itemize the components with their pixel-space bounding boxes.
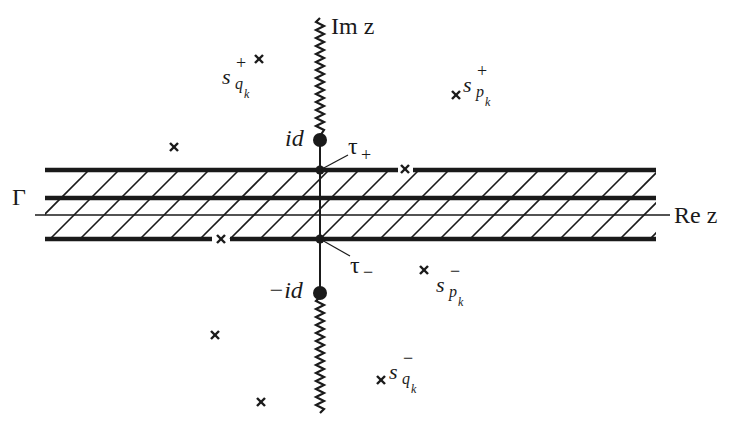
complex-plane-diagram	[0, 0, 740, 436]
s-sub: p	[449, 284, 457, 300]
lower-branch-cut	[316, 297, 324, 413]
real-axis-label: Re z	[674, 203, 717, 227]
s-sign: −	[450, 262, 460, 280]
tau-plus-symbol: τ	[348, 133, 358, 159]
cross-icon	[211, 331, 219, 339]
tau-minus-leader	[320, 239, 350, 256]
s-sign: −	[403, 349, 413, 367]
lower-branch-point-label: −id	[268, 278, 303, 302]
s-subsub: k	[485, 96, 490, 108]
s-sub: p	[476, 84, 484, 100]
s-pk-plus-label: s + p k	[463, 66, 503, 106]
s-subsub: k	[458, 296, 463, 308]
upper-branch-cut	[316, 18, 324, 136]
cross-icon	[452, 91, 460, 99]
tau-minus-label: τ−	[350, 253, 390, 283]
cross-icon	[257, 398, 265, 406]
re-z-text: Re z	[674, 202, 717, 228]
s-base: s	[222, 66, 231, 88]
s-subsub: k	[411, 383, 416, 395]
s-sign: +	[477, 62, 487, 80]
cross-icon	[217, 235, 225, 243]
s-qk-minus-label: s − q k	[389, 353, 429, 393]
tau-minus-sign: −	[363, 263, 373, 281]
branch-point-upper	[313, 133, 327, 147]
cross-icon	[420, 266, 428, 274]
s-subsub: k	[244, 88, 249, 100]
upper-branch-point-label: id	[285, 126, 304, 150]
contour-label-gamma: Γ	[12, 185, 26, 209]
s-qk-plus-label: s + q k	[222, 58, 262, 98]
tau-plus-sign: +	[361, 146, 371, 164]
cross-icon	[401, 165, 409, 173]
s-base: s	[389, 361, 398, 383]
s-sign: +	[236, 54, 246, 72]
tau-plus-label: τ+	[348, 134, 388, 164]
im-z-text: Im z	[331, 13, 374, 39]
tau-minus-symbol: τ	[350, 252, 360, 278]
hatched-strip	[20, 170, 719, 239]
cross-icon	[377, 376, 385, 384]
s-sub: q	[235, 76, 243, 92]
cross-icon	[170, 143, 178, 151]
s-base: s	[436, 274, 445, 296]
branch-point-lower	[313, 286, 327, 300]
imaginary-axis-label: Im z	[331, 14, 374, 38]
s-pk-minus-label: s − p k	[436, 266, 476, 306]
s-sub: q	[402, 371, 410, 387]
s-base: s	[463, 74, 472, 96]
